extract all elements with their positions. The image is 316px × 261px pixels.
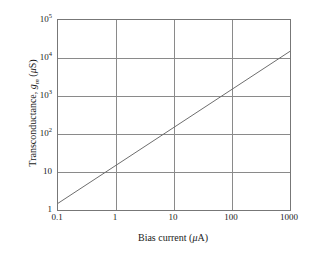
- x-tick-label-1: 1: [85, 213, 145, 222]
- y-tick-label-1e5: 105: [0, 15, 52, 24]
- x-tick-label-0.1: 0.1: [27, 213, 87, 222]
- y-tick-exponent: 3: [49, 88, 52, 95]
- x-axis-title: Bias current (μA): [57, 232, 289, 244]
- y-tick-exponent: 4: [49, 50, 52, 57]
- x-axis-title-suffix: A): [197, 232, 208, 243]
- x-tick-label-100: 100: [201, 213, 261, 222]
- y-axis-title-mu: μ: [27, 68, 38, 73]
- y-tick-label-1e4: 104: [0, 53, 52, 62]
- y-axis-title-subscript: m: [33, 79, 41, 84]
- plot-area: [57, 19, 291, 211]
- y-tick-label-1e3: 103: [0, 91, 52, 100]
- y-axis-title-open: (: [27, 73, 38, 79]
- y-axis-title-symbol: g: [27, 84, 38, 89]
- y-tick-mantissa: 10: [40, 14, 49, 24]
- y-tick-label-1e2: 102: [0, 129, 52, 138]
- y-tick-mantissa: 10: [40, 90, 49, 100]
- y-tick-exponent: 2: [49, 126, 52, 133]
- y-tick-label-10: 10: [0, 167, 52, 176]
- data-series-line: [58, 20, 290, 210]
- x-tick-label-10: 10: [143, 213, 203, 222]
- y-tick-mantissa: 10: [40, 52, 49, 62]
- figure: Transconductance, gm (μS) 105 104 103 10…: [0, 0, 316, 261]
- y-axis-title: Transconductance, gm (μS): [27, 18, 39, 208]
- x-tick-label-1000: 1000: [259, 213, 316, 222]
- y-tick-mantissa: 10: [43, 166, 52, 176]
- y-tick-exponent: 5: [49, 12, 52, 19]
- x-axis-title-prefix: Bias current (: [138, 232, 192, 243]
- y-tick-mantissa: 10: [40, 128, 49, 138]
- y-axis-title-prefix: Transconductance,: [27, 89, 38, 166]
